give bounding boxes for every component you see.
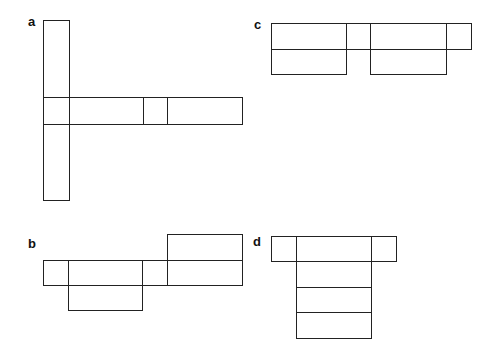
net-figure-d: d: [0, 0, 489, 352]
net-face: [296, 261, 372, 288]
net-face: [371, 236, 397, 262]
net-face: [296, 236, 372, 262]
figure-label: d: [253, 235, 261, 248]
net-face: [296, 312, 372, 339]
net-face: [271, 236, 297, 262]
net-face: [296, 287, 372, 313]
